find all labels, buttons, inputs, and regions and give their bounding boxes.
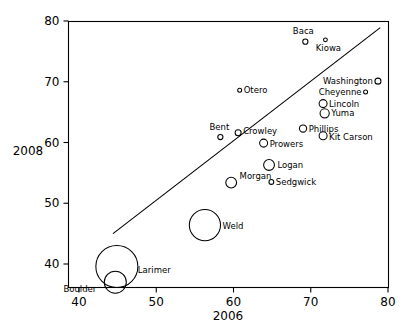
point-label: Washington — [323, 76, 373, 86]
data-point[interactable]: Yuma — [320, 108, 354, 118]
point-label: Baca — [293, 26, 314, 36]
point-marker[interactable] — [324, 38, 328, 42]
data-point[interactable]: Boulder — [63, 271, 126, 294]
y-axis-ticks: 4050607080 — [44, 14, 68, 271]
x-tick-label: 80 — [380, 295, 395, 309]
point-label: Boulder — [63, 284, 96, 294]
point-label: Weld — [223, 221, 244, 231]
scatter-plot-figure: 4050607080 4050607080 2006 2008 BacaKiow… — [0, 0, 411, 327]
point-marker[interactable] — [319, 100, 327, 108]
point-label: Kiowa — [316, 43, 341, 53]
point-label: Morgan — [240, 171, 272, 181]
point-marker[interactable] — [218, 134, 223, 139]
data-point[interactable]: Baca — [293, 26, 314, 45]
point-label: Sedgwick — [276, 177, 316, 187]
point-label: Larimer — [138, 265, 171, 275]
point-marker[interactable] — [364, 90, 368, 94]
data-points: BacaKiowaWashingtonCheyenneLincolnYumaOt… — [63, 26, 381, 295]
data-point[interactable]: Kiowa — [316, 38, 341, 53]
point-marker[interactable] — [104, 271, 126, 293]
y-tick-label: 60 — [44, 136, 59, 150]
y-tick-label: 70 — [44, 75, 59, 89]
point-marker[interactable] — [235, 130, 241, 136]
point-label: Bent — [209, 122, 229, 132]
data-point[interactable]: Lincoln — [319, 99, 359, 109]
point-marker[interactable] — [375, 78, 381, 84]
data-point[interactable]: Bent — [209, 122, 229, 140]
data-point[interactable]: Cheyenne — [319, 87, 368, 97]
data-point[interactable]: Larimer — [96, 245, 171, 287]
data-point[interactable]: Prowers — [260, 139, 304, 149]
point-marker[interactable] — [96, 245, 138, 287]
x-axis-title: 2006 — [213, 309, 244, 323]
point-label: Kit Carson — [329, 132, 373, 142]
point-marker[interactable] — [264, 160, 275, 171]
data-point[interactable]: Otero — [238, 85, 268, 95]
x-tick-label: 60 — [226, 295, 241, 309]
data-point[interactable]: Weld — [189, 210, 243, 241]
data-point[interactable]: Morgan — [226, 171, 272, 188]
y-tick-label: 50 — [44, 196, 59, 210]
point-marker[interactable] — [238, 88, 242, 92]
point-marker[interactable] — [260, 139, 268, 147]
point-marker[interactable] — [303, 39, 308, 44]
plot-canvas: 4050607080 4050607080 2006 2008 BacaKiow… — [0, 0, 411, 327]
point-marker[interactable] — [299, 125, 306, 132]
data-point[interactable]: Logan — [264, 160, 304, 171]
data-point[interactable]: Sedgwick — [269, 177, 316, 187]
x-tick-label: 50 — [149, 295, 164, 309]
plot-frame — [69, 22, 389, 288]
point-label: Cheyenne — [319, 87, 362, 97]
point-label: Crowley — [243, 126, 277, 136]
x-tick-label: 70 — [303, 295, 318, 309]
point-marker[interactable] — [189, 210, 220, 241]
point-label: Logan — [277, 160, 303, 170]
y-axis-title: 2008 — [13, 144, 44, 158]
point-marker[interactable] — [226, 177, 237, 188]
y-tick-label: 80 — [44, 14, 59, 28]
y-tick-label: 40 — [44, 257, 59, 271]
point-marker[interactable] — [320, 109, 329, 118]
x-tick-label: 40 — [71, 295, 86, 309]
data-point[interactable]: Washington — [323, 76, 381, 86]
point-label: Lincoln — [329, 99, 359, 109]
point-label: Otero — [244, 85, 268, 95]
point-label: Prowers — [270, 139, 304, 149]
point-label: Yuma — [330, 108, 354, 118]
x-axis-ticks: 4050607080 — [71, 288, 395, 309]
